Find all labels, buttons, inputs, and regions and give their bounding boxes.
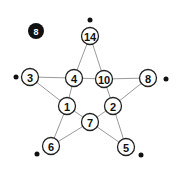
node-2: 2 <box>105 98 122 115</box>
dot-8-marker <box>164 77 169 82</box>
node-label: 6 <box>48 141 54 153</box>
dot-3-marker <box>14 75 19 80</box>
node-label: 14 <box>84 31 97 43</box>
node-5: 5 <box>118 139 135 156</box>
node-label: 10 <box>98 74 110 86</box>
node-7: 7 <box>82 114 99 131</box>
dot-5-marker <box>139 153 144 158</box>
puzzle-number-badge: 8 <box>28 23 44 39</box>
node-1: 1 <box>59 98 76 115</box>
star-graph-diagram: 143410812765 8 <box>0 0 179 172</box>
node-4: 4 <box>66 70 83 87</box>
node-label: 2 <box>110 101 116 113</box>
node-label: 7 <box>87 117 93 129</box>
node-label: 4 <box>71 73 78 85</box>
node-label: 8 <box>145 73 151 85</box>
node-14: 14 <box>82 28 99 45</box>
nodes-layer: 143410812765 <box>22 28 157 156</box>
node-8: 8 <box>140 70 157 87</box>
dot-6-marker <box>35 152 40 157</box>
node-6: 6 <box>43 138 60 155</box>
node-10: 10 <box>96 71 113 88</box>
node-label: 1 <box>64 101 70 113</box>
badge-label: 8 <box>33 27 38 37</box>
node-label: 5 <box>123 142 129 154</box>
dot-14-marker <box>88 18 93 23</box>
node-label: 3 <box>27 72 33 84</box>
node-3: 3 <box>22 69 39 86</box>
